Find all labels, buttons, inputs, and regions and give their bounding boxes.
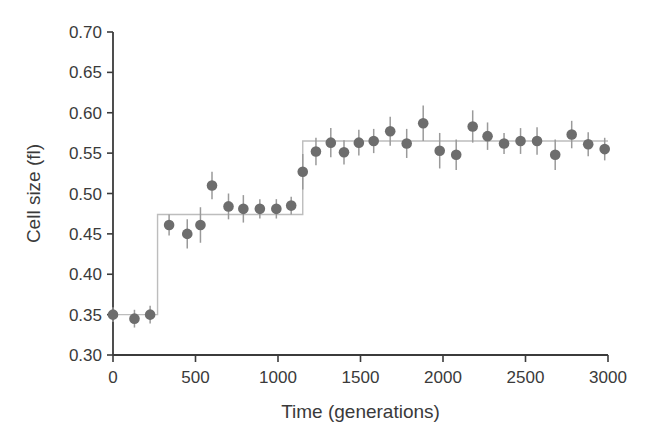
y-axis-tick-label: 0.30 (69, 346, 102, 365)
y-axis-tick-label: 0.70 (69, 23, 102, 42)
x-axis-tick-label: 1500 (342, 368, 380, 387)
data-point-marker (434, 145, 445, 156)
x-axis-tick-label: 500 (181, 368, 209, 387)
data-point-marker (401, 138, 412, 149)
data-point-marker (451, 149, 462, 160)
data-point-marker (550, 149, 561, 160)
data-point-marker (326, 137, 337, 148)
cell-size-vs-time-scatter-plot: 0.300.350.400.450.500.550.600.650.700500… (0, 0, 646, 442)
x-axis-title: Time (generations) (281, 401, 440, 422)
data-point-marker (255, 204, 266, 215)
data-point-marker (482, 131, 493, 142)
data-point-marker (467, 121, 478, 132)
y-axis-tick-label: 0.35 (69, 306, 102, 325)
data-point-marker (238, 204, 249, 215)
data-point-marker (354, 137, 365, 148)
data-point-marker (271, 204, 282, 215)
x-axis-tick-label: 2000 (424, 368, 462, 387)
y-axis-tick-label: 0.65 (69, 63, 102, 82)
data-point-marker (195, 220, 206, 231)
data-point-marker (499, 138, 510, 149)
data-point-marker (182, 229, 193, 240)
data-point-marker (583, 139, 594, 150)
data-point-marker (297, 166, 308, 177)
data-point-marker (108, 309, 119, 320)
data-point-marker (532, 136, 543, 147)
data-point-marker (286, 200, 297, 211)
y-axis-tick-label: 0.50 (69, 185, 102, 204)
data-point-marker (566, 129, 577, 140)
data-point-marker (223, 201, 234, 212)
data-point-marker (368, 136, 379, 147)
x-axis-tick-label: 1000 (259, 368, 297, 387)
y-axis-tick-label: 0.55 (69, 144, 102, 163)
data-point-marker (385, 126, 396, 137)
y-axis-tick-label: 0.40 (69, 265, 102, 284)
figure-container: 0.300.350.400.450.500.550.600.650.700500… (0, 0, 646, 442)
data-point-marker (311, 146, 322, 157)
y-axis-title: Cell size (fl) (23, 144, 44, 243)
y-axis-tick-label: 0.60 (69, 104, 102, 123)
x-axis-tick-label: 2500 (507, 368, 545, 387)
y-axis-tick-label: 0.45 (69, 225, 102, 244)
data-point-marker (207, 180, 218, 191)
data-point-marker (599, 144, 610, 155)
x-axis-tick-label: 0 (108, 368, 117, 387)
data-point-marker (164, 220, 175, 231)
data-point-marker (339, 147, 350, 158)
data-point-marker (515, 136, 526, 147)
data-point-marker (129, 313, 140, 324)
x-axis-tick-label: 3000 (589, 368, 627, 387)
data-point-marker (418, 118, 429, 129)
data-point-marker (145, 309, 156, 320)
